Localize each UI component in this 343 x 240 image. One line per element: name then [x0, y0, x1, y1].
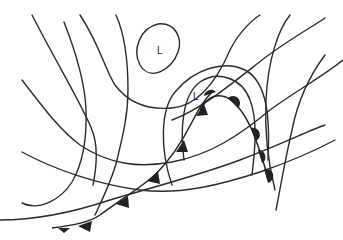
isobar	[32, 15, 96, 185]
cold-front-triangle-icon	[58, 228, 70, 233]
low-pressure-label: L	[157, 45, 163, 56]
isobar	[266, 15, 290, 190]
isobar	[80, 15, 260, 108]
isobars	[0, 15, 343, 220]
isobar	[172, 18, 325, 120]
weather-map: L L	[0, 0, 343, 240]
low-pressure-label: L	[193, 91, 199, 102]
cold-front-triangle-icon	[147, 171, 160, 184]
isobar	[22, 22, 86, 206]
warm-front-semicircle-icon	[251, 128, 260, 141]
weather-map-canvas: L L	[0, 0, 343, 240]
warm-front-semicircle-icon	[228, 96, 240, 108]
warm-front-semicircle-icon	[264, 169, 273, 183]
warm-front-semicircle-icon	[258, 150, 265, 163]
cold-front-symbols	[58, 104, 208, 233]
